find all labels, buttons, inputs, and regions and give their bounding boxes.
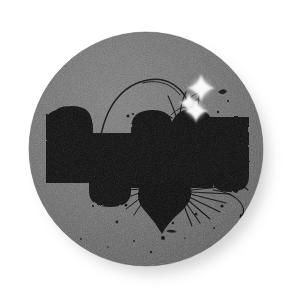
canvas: numu numu grunge-sticker-badge n u m u [0, 0, 291, 304]
numu-badge-artwork[interactable]: numu [0, 0, 291, 304]
